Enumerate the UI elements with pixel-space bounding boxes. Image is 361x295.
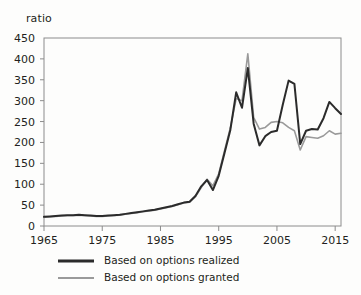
legend-swatch-options-realized bbox=[57, 256, 95, 266]
y-tick-label: 200 bbox=[14, 136, 35, 149]
x-axis-tick-marks bbox=[44, 226, 335, 231]
y-tick-label: 50 bbox=[21, 199, 35, 212]
y-tick-label: 300 bbox=[14, 95, 35, 108]
y-axis-title: ratio bbox=[26, 12, 52, 25]
x-tick-label: 1985 bbox=[146, 234, 174, 247]
y-tick-label: 100 bbox=[14, 178, 35, 191]
x-tick-label: 2005 bbox=[263, 234, 291, 247]
series-line-options-granted bbox=[44, 54, 341, 217]
y-axis-tick-labels: 050100150200250300350400450 bbox=[14, 32, 35, 233]
legend-label-options-granted: Based on options granted bbox=[104, 272, 239, 283]
x-tick-label: 1965 bbox=[30, 234, 58, 247]
x-tick-label: 2015 bbox=[321, 234, 349, 247]
y-tick-label: 450 bbox=[14, 32, 35, 45]
legend-item-options-realized: Based on options realized bbox=[0, 252, 361, 269]
data-series-group bbox=[44, 54, 341, 217]
series-line-options-realized bbox=[44, 68, 341, 217]
x-tick-label: 1975 bbox=[88, 234, 116, 247]
legend-label-options-realized: Based on options realized bbox=[104, 255, 239, 266]
y-axis-tick-marks bbox=[40, 59, 44, 226]
y-tick-label: 0 bbox=[28, 220, 35, 233]
y-tick-label: 150 bbox=[14, 157, 35, 170]
x-axis-tick-labels: 196519751985199520052015 bbox=[30, 234, 349, 247]
chart-legend: Based on options realized Based on optio… bbox=[0, 252, 361, 292]
y-tick-label: 400 bbox=[14, 53, 35, 66]
chart-figure: ratio 050100150200250300350400450 196519… bbox=[0, 0, 361, 295]
y-tick-label: 250 bbox=[14, 116, 35, 129]
y-tick-label: 350 bbox=[14, 74, 35, 87]
x-tick-label: 1995 bbox=[205, 234, 233, 247]
legend-item-options-granted: Based on options granted bbox=[0, 269, 361, 286]
line-chart-plot: 050100150200250300350400450 196519751985… bbox=[0, 0, 361, 252]
legend-swatch-options-granted bbox=[57, 273, 95, 283]
